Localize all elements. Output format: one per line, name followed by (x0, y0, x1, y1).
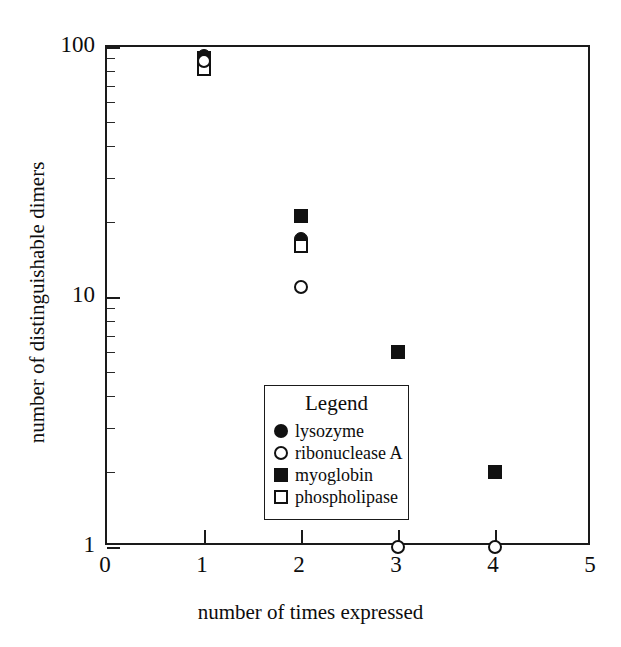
legend-marker-filled-circle-icon (274, 424, 288, 438)
x-tick-major (301, 530, 303, 543)
x-tick-label: 3 (376, 553, 416, 576)
y-tick-minor (107, 396, 115, 397)
x-tick-major (204, 530, 206, 543)
x-tick-label: 0 (85, 553, 125, 576)
y-tick-minor (107, 58, 115, 59)
legend-entry-label: phospholipase (295, 488, 398, 506)
y-tick-minor (107, 428, 115, 429)
data-point-ribonuclease-a (294, 280, 308, 294)
data-point-ribonuclease-a (197, 54, 211, 68)
legend-entry-label: lysozyme (295, 422, 364, 440)
y-tick-minor (107, 472, 115, 473)
y-tick-label: 100 (61, 33, 96, 56)
y-tick-minor (107, 308, 115, 309)
y-tick-minor (107, 86, 115, 87)
x-tick-label: 4 (473, 553, 513, 576)
chart-figure: Legend lysozymeribonuclease Amyoglobinph… (0, 0, 621, 647)
plot-area: Legend lysozymeribonuclease Amyoglobinph… (105, 45, 590, 545)
y-tick-minor (107, 372, 115, 373)
legend-entry: myoglobin (265, 464, 408, 486)
y-tick-minor (107, 321, 115, 322)
legend-marker-filled-square-icon (274, 468, 288, 482)
legend-entry: lysozyme (265, 420, 408, 442)
legend-title: Legend (265, 391, 408, 416)
y-tick-minor (107, 102, 115, 103)
legend-marker-open-square-icon (274, 490, 288, 504)
x-tick-label: 2 (279, 553, 319, 576)
data-point-myoglobin (294, 209, 308, 223)
legend: Legend lysozymeribonuclease Amyoglobinph… (264, 385, 409, 520)
legend-marker-open-circle-icon (274, 446, 288, 460)
x-tick-label: 1 (182, 553, 222, 576)
legend-entry: ribonuclease A (265, 442, 408, 464)
x-axis-title: number of times expressed (0, 600, 621, 625)
y-tick-label: 10 (72, 283, 95, 306)
data-point-phospholipase (294, 239, 308, 253)
y-tick-minor (107, 122, 115, 123)
y-axis-title: number of distinguishable dimers (25, 53, 50, 553)
legend-entry-label: myoglobin (295, 466, 373, 484)
data-point-myoglobin (488, 465, 502, 479)
y-tick-minor (107, 352, 115, 353)
y-tick-minor (107, 146, 115, 147)
x-tick-label: 5 (570, 553, 610, 576)
y-tick-major (107, 547, 120, 549)
legend-entry-label: ribonuclease A (295, 444, 402, 462)
y-tick-minor (107, 222, 115, 223)
y-tick-minor (107, 178, 115, 179)
y-tick-minor (107, 71, 115, 72)
y-tick-major (107, 297, 120, 299)
legend-entry: phospholipase (265, 486, 408, 508)
y-tick-major (107, 47, 120, 49)
y-tick-minor (107, 336, 115, 337)
legend-entries: lysozymeribonuclease Amyoglobinphospholi… (265, 420, 408, 508)
data-point-myoglobin (391, 345, 405, 359)
